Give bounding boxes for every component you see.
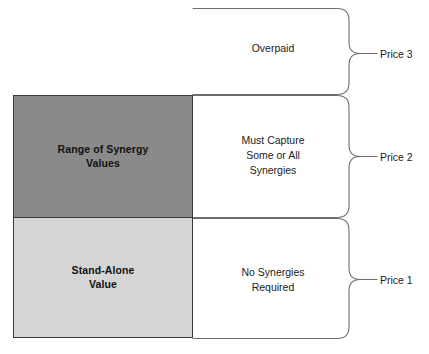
- range-of-synergy-values-box: Range of Synergy Values: [13, 95, 193, 218]
- overpaid-description: Overpaid: [195, 41, 351, 56]
- stand-alone-value-box: Stand-Alone Value: [13, 217, 193, 338]
- no-synergies-required-description: No Synergies Required: [195, 265, 351, 295]
- price-3-label: Price 3: [380, 48, 413, 60]
- price-1-label: Price 1: [380, 274, 413, 286]
- range-of-synergy-values-label: Range of Synergy Values: [58, 143, 149, 171]
- diagram-canvas: Range of Synergy Values Stand-Alone Valu…: [0, 0, 429, 354]
- stand-alone-value-label: Stand-Alone Value: [72, 264, 135, 292]
- price-2-label: Price 2: [380, 151, 413, 163]
- must-capture-synergies-description: Must Capture Some or All Synergies: [195, 133, 351, 178]
